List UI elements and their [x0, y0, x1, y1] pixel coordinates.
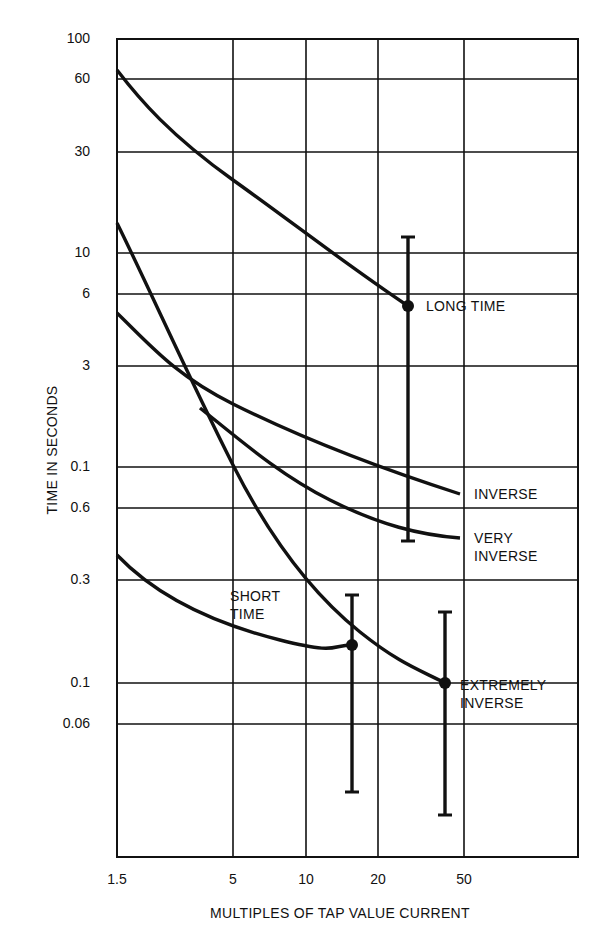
- label-long-time: LONG TIME: [426, 297, 505, 315]
- x-tick-label: 10: [298, 872, 314, 886]
- y-tick-label: 30: [0, 144, 90, 158]
- chart-canvas: [0, 0, 607, 941]
- y-axis-label: TIME IN SECONDS: [44, 386, 60, 515]
- grid-lines: [117, 39, 578, 857]
- x-axis-label: MULTIPLES OF TAP VALUE CURRENT: [210, 905, 470, 921]
- long-time-band: [401, 237, 415, 541]
- plot-frame: [117, 39, 578, 857]
- extremely-inverse-band: [438, 612, 452, 815]
- y-tick-label: 0.3: [0, 572, 90, 586]
- y-tick-label: 0.06: [0, 716, 90, 730]
- y-tick-label: 100: [0, 31, 90, 45]
- label-extremely-inverse: EXTREMELY INVERSE: [460, 676, 546, 712]
- x-tick-label: 5: [229, 872, 237, 886]
- y-tick-label: 6: [0, 286, 90, 300]
- curve-long-time: [117, 70, 408, 306]
- y-tick-label: 60: [0, 71, 90, 85]
- label-very-inverse: VERY INVERSE: [474, 529, 538, 565]
- x-tick-label: 20: [370, 872, 386, 886]
- y-tick-label: 10: [0, 245, 90, 259]
- short-time-band: [345, 595, 359, 792]
- x-tick-label: 1.5: [107, 872, 126, 886]
- label-short-time: SHORT TIME: [230, 587, 280, 623]
- curve-extremely-inverse: [117, 223, 445, 683]
- x-tick-label: 50: [456, 872, 472, 886]
- y-tick-label: 0.1: [0, 675, 90, 689]
- y-tick-label: 3: [0, 358, 90, 372]
- label-inverse: INVERSE: [474, 485, 538, 503]
